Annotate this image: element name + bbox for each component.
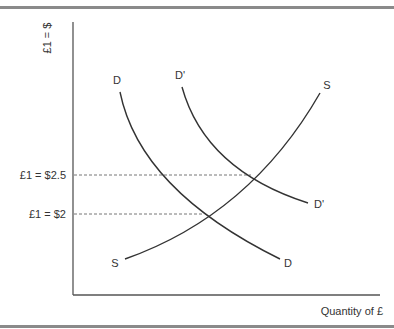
supply-label-bottom: S	[111, 257, 118, 269]
demand-label-top: D	[113, 74, 121, 86]
demand-shifted-curve	[182, 87, 308, 203]
y-axis-label: £1 = $	[41, 23, 53, 54]
price-label-2: £1 = $2	[29, 208, 66, 220]
demand-label-bottom: D	[284, 257, 292, 269]
supply-demand-diagram: £1 = $ £1 = $2.5 £1 = $2 D D D' D' S S Q…	[0, 0, 394, 329]
supply-curve	[125, 93, 320, 259]
x-axis-label: Quantity of £	[321, 305, 383, 317]
demand-shifted-label-top: D'	[175, 69, 185, 81]
supply-label-top: S	[323, 79, 330, 91]
demand-shifted-label-bottom: D'	[314, 198, 324, 210]
price-label-2-5: £1 = $2.5	[20, 169, 66, 181]
